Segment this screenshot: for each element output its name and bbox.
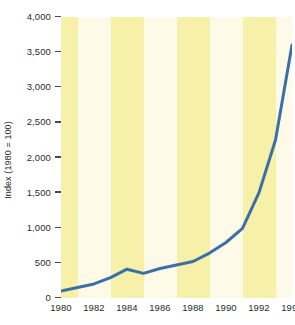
y-axis-tick-label: 3,000 (27, 81, 51, 93)
y-axis-tick-label: 3,500 (27, 46, 51, 58)
x-axis: 19801982198419861988199019921994 (61, 302, 292, 322)
y-axis-tick-label: 1,500 (27, 187, 51, 199)
y-axis-tick: 4,000 (27, 11, 61, 23)
y-axis-tick: 2,000 (27, 152, 61, 164)
y-axis-tick-label: 4,000 (27, 11, 51, 23)
y-axis-tick: 1,500 (27, 187, 61, 199)
y-axis-tick: 1,000 (27, 222, 61, 234)
y-axis-tick-label: 1,000 (27, 222, 51, 234)
y-axis-tick-label: 2,000 (27, 152, 51, 164)
y-axis-tick: 3,000 (27, 81, 61, 93)
data-series-line (61, 45, 292, 291)
data-line-layer (61, 17, 292, 298)
y-axis-tick: 500 (35, 257, 61, 269)
y-axis-title: Index (1980 = 100) (0, 0, 18, 325)
y-axis-tick-label: 500 (35, 257, 51, 269)
y-axis-tick: 3,500 (27, 46, 61, 58)
y-axis: 05001,0001,5002,0002,5003,0003,5004,000 (18, 0, 61, 325)
y-axis-tick-label: 2,500 (27, 116, 51, 128)
line-chart: Index (1980 = 100) 05001,0001,5002,0002,… (0, 0, 295, 325)
y-axis-title-label: Index (1980 = 100) (3, 60, 13, 260)
plot-area (61, 17, 292, 298)
data-line-svg (61, 17, 292, 298)
y-axis-tick: 2,500 (27, 116, 61, 128)
x-axis-tick-label: 1994 (272, 302, 295, 313)
